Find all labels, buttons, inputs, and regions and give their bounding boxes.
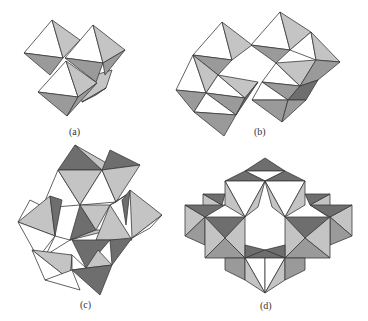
panel-c-label: (c) [80,299,91,311]
panel-c-polyhedra [18,145,162,295]
panel-d-polyhedra [185,158,352,293]
panel-d-label: (d) [260,300,272,312]
panel-b-label: (b) [254,126,266,138]
figure: (a) (b) [0,0,368,321]
panel-a-polyhedra [24,20,125,116]
panel-a-label: (a) [69,126,80,138]
panel-b-polyhedra [176,12,340,136]
